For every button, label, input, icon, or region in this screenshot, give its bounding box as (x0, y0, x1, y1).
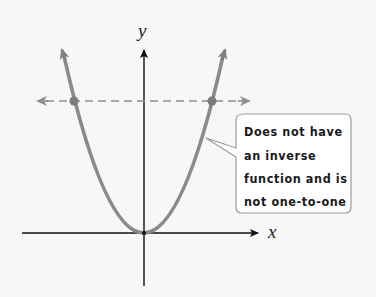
intersection-point-left (70, 97, 79, 106)
x-axis-label: x (267, 221, 277, 242)
parabola-diagram: x y Does not have an inverse function an… (0, 0, 376, 297)
curve-left-arrow-icon (62, 50, 65, 60)
callout-box: Does not have an inverse function and is… (206, 114, 351, 213)
curve-right-arrow-icon (222, 50, 225, 60)
callout-line-1: Does not have (244, 124, 343, 139)
diagram-canvas: x y Does not have an inverse function an… (0, 0, 376, 297)
callout-line-2: an inverse (244, 148, 316, 163)
vertex-point (142, 231, 146, 235)
callout-line-4: not one-to-one (244, 194, 347, 209)
y-axis-label: y (136, 20, 147, 41)
intersection-point-right (208, 97, 217, 106)
callout-line-3: function and is (244, 171, 348, 186)
